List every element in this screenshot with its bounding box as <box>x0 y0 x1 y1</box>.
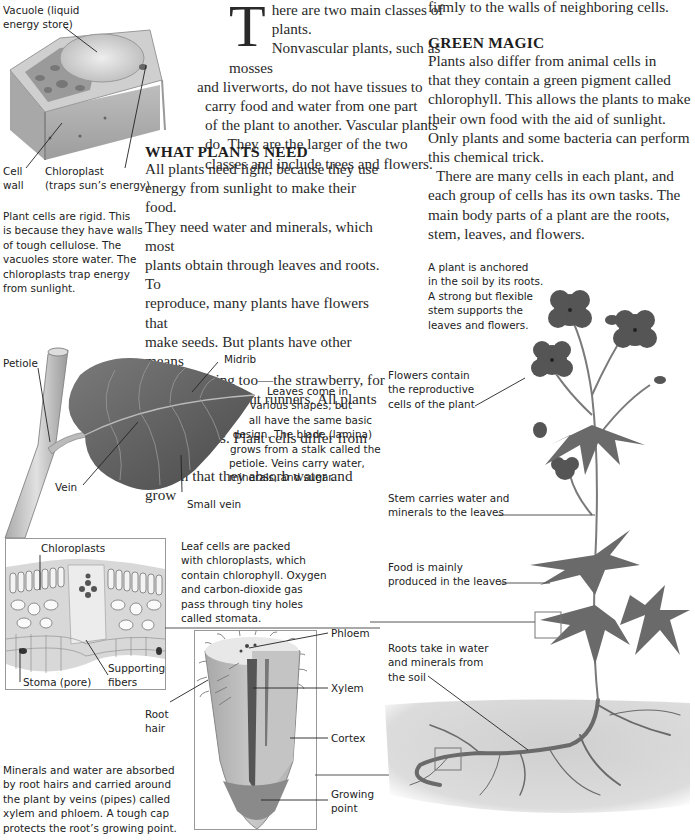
text-line: their own food with the aid of sunlight. <box>428 109 695 128</box>
intro-line: and liverworts, do not have tissues to <box>197 77 465 96</box>
label-flowers: Flowers contain the reproductive cells o… <box>388 368 475 411</box>
text-line: They need water and minerals, which most <box>145 217 385 255</box>
intro-line: carry food and water from one part <box>205 96 465 115</box>
leaf-caption: Leaves come in various shapes, but all h… <box>230 384 380 485</box>
label-roots: Roots take in water and minerals from th… <box>388 641 488 684</box>
label-stoma: Stoma (pore) <box>23 675 91 689</box>
continuation-line: firmly to the walls of neighboring cells… <box>428 0 669 16</box>
text-line: stem, leaves, and flowers. <box>428 224 695 243</box>
cell-caption: Plant cells are rigid. This is because t… <box>3 209 143 295</box>
text-line: main body parts of a plant are the roots… <box>428 205 695 224</box>
label-chloroplasts: Chloroplasts <box>41 541 105 555</box>
text-line: All plants need light, because they use <box>145 159 385 178</box>
text-line: Only plants and some bacteria can perfor… <box>428 128 695 147</box>
label-root-hair: Root hair <box>145 707 169 735</box>
label-cortex: Cortex <box>331 731 365 745</box>
text-line: chlorophyll. This allows the plants to m… <box>428 89 695 108</box>
drop-cap: T <box>229 2 266 50</box>
label-supporting-fibers: Supporting fibers <box>108 661 165 689</box>
root-caption: Minerals and water are absorbed by root … <box>3 763 178 835</box>
label-vacuole: Vacuole (liquid energy store) <box>3 3 79 31</box>
label-growing-point: Growing point <box>331 787 374 815</box>
heading-green-magic: GREEN MAGIC <box>428 34 544 52</box>
text-line: that they contain a green pigment called <box>428 70 695 89</box>
green-magic-paragraph: Plants also differ from animal cells in … <box>428 51 695 243</box>
text-line: each group of cells has its own tasks. T… <box>428 185 695 204</box>
plant-caption: A plant is anchored in the soil by its r… <box>428 260 588 332</box>
label-midrib: Midrib <box>224 352 256 366</box>
label-stem: Stem carries water and minerals to the l… <box>388 491 509 520</box>
leaf-section-caption: Leaf cells are packed with chloroplasts,… <box>181 539 361 625</box>
text-line: There are many cells in each plant, and <box>428 166 695 185</box>
label-petiole: Petiole <box>3 356 38 370</box>
label-phloem: Phloem <box>331 626 370 640</box>
root-leader-lines <box>170 620 330 830</box>
intro-line: of the plant to another. Vascular plants <box>205 115 465 134</box>
label-small-vein: Small vein <box>187 497 241 511</box>
label-vein: Vein <box>55 480 77 494</box>
text-line: energy from sunlight to make their food. <box>145 178 385 216</box>
label-xylem: Xylem <box>331 681 364 695</box>
label-food: Food is mainly produced in the leaves <box>388 560 507 589</box>
label-chloroplast: Chloroplast (traps sun’s energy) <box>45 164 150 192</box>
text-line: plants obtain through leaves and roots. … <box>145 255 385 293</box>
text-line: this chemical trick. <box>428 147 695 166</box>
plant-leader-lines <box>370 250 695 810</box>
label-cell-wall: Cell wall <box>3 164 24 192</box>
text-line: reproduce, many plants have flowers that <box>145 293 385 331</box>
text-line: Plants also differ from animal cells in <box>428 51 695 70</box>
